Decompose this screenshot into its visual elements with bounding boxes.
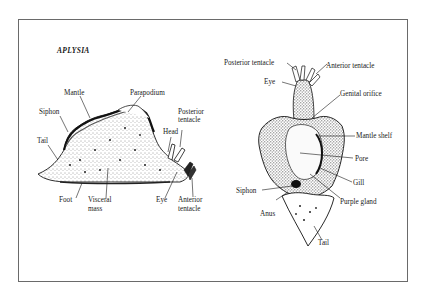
label-eye-lateral: Eye	[156, 196, 167, 204]
label-mantle: Mantle	[64, 89, 84, 97]
label-head: Head	[163, 128, 178, 136]
label-parapodium: Parapodium	[130, 89, 165, 97]
label-mantle-shelf: Mantle shelf	[356, 132, 392, 140]
label-posterior-tentacle-lateral-2: tentacle	[178, 116, 200, 124]
label-visceral-mass-2: mass	[88, 205, 102, 213]
label-purple-gland: Purple gland	[340, 198, 377, 206]
label-tail-dorsal: Tail	[318, 239, 329, 247]
aplysia-illustration	[0, 0, 428, 297]
label-anterior-tentacle-dorsal: Anterior tentacle	[326, 62, 375, 70]
label-genital-orifice: Genital orifice	[340, 90, 382, 98]
label-posterior-tentacle-lateral-1: Posterior	[178, 108, 204, 116]
label-anterior-tentacle-lateral-1: Anterior	[178, 196, 202, 204]
label-foot: Foot	[59, 196, 72, 204]
label-tail-lateral: Tail	[37, 137, 48, 145]
label-anterior-tentacle-lateral-2: tentacle	[178, 205, 200, 213]
label-pore: Pore	[355, 155, 368, 163]
label-siphon-lateral: Siphon	[39, 108, 59, 116]
label-visceral-mass-1: Visceral	[88, 196, 112, 204]
label-eye-dorsal: Eye	[264, 78, 275, 86]
lateral-view-drawing	[38, 96, 196, 198]
label-gill: Gill	[353, 179, 364, 187]
label-anus: Anus	[260, 210, 275, 218]
label-siphon-dorsal: Siphon	[236, 187, 256, 195]
figure-title: APLYSIA	[57, 46, 90, 55]
label-posterior-tentacle-dorsal: Posterior tentacle	[224, 59, 274, 67]
